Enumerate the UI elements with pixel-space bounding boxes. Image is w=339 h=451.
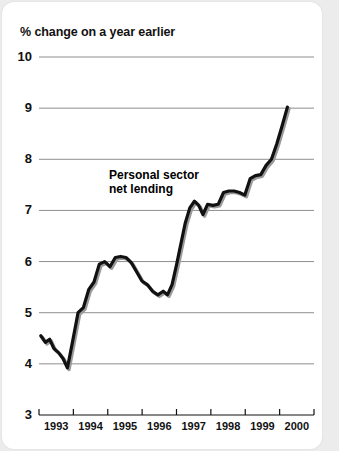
series-line-shadow xyxy=(42,109,289,370)
y-axis-tick-label: 7 xyxy=(10,202,32,217)
series-annotation-label: Personal sector net lending xyxy=(109,168,199,196)
x-axis-tick-label: 1996 xyxy=(142,420,176,432)
x-axis-tick-label: 1999 xyxy=(245,420,279,432)
x-axis-tick-label: 1995 xyxy=(108,420,142,432)
y-axis-tick-label: 5 xyxy=(10,305,32,320)
y-axis-tick-label: 8 xyxy=(10,151,32,166)
x-axis-ticks-group xyxy=(39,409,314,415)
x-axis-tick-label: 1998 xyxy=(211,420,245,432)
line-chart-plot xyxy=(2,2,322,449)
x-axis-tick-label: 2000 xyxy=(280,420,314,432)
y-axis-tick-label: 4 xyxy=(10,356,32,371)
x-axis-tick-label: 1997 xyxy=(177,420,211,432)
x-axis-tick-label: 1994 xyxy=(73,420,107,432)
x-axis-tick-label: 1993 xyxy=(39,420,73,432)
y-axis-tick-label: 9 xyxy=(10,100,32,115)
y-axis-tick-label: 3 xyxy=(10,407,32,422)
chart-card: % change on a year earlier 109876543 199… xyxy=(2,2,322,449)
y-axis-tick-label: 10 xyxy=(10,49,32,64)
y-axis-tick-label: 6 xyxy=(10,254,32,269)
